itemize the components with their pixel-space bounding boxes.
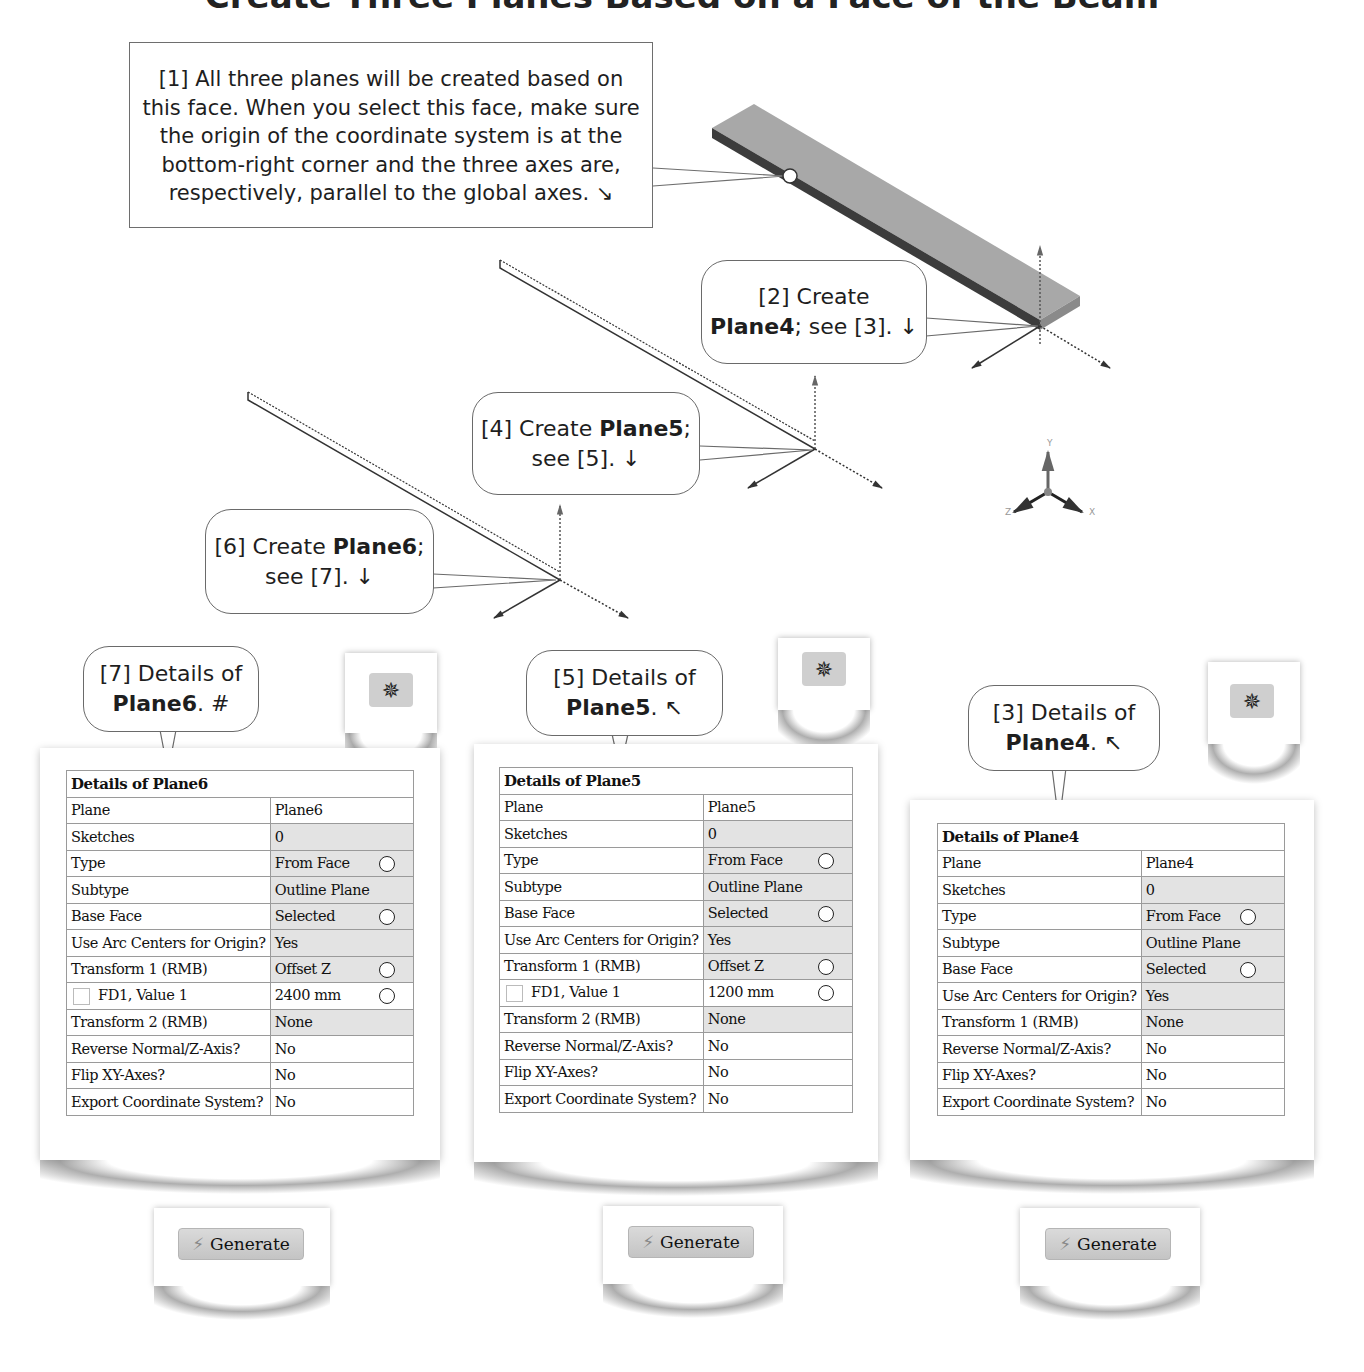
- table-row: Export Coordinate System?No: [67, 1089, 414, 1116]
- table-row: Sketches0: [938, 877, 1285, 904]
- callout-6: [6] Create Plane6; see [7]. ↓: [205, 509, 434, 614]
- radio-icon[interactable]: [379, 909, 395, 925]
- table-row: Export Coordinate System?No: [500, 1086, 853, 1113]
- table-row: FD1, Value 12400 mm: [67, 983, 414, 1010]
- table-row: PlanePlane5: [500, 794, 853, 821]
- table-row: Transform 1 (RMB)Offset Z: [500, 953, 853, 980]
- new-plane-icon: ✵: [1243, 689, 1261, 714]
- table-row: Flip XY-Axes?No: [938, 1062, 1285, 1089]
- generate-toolbar-crop: ⚡ Generate: [154, 1208, 330, 1286]
- details-of-plane6: Details of Plane6 PlanePlane6 Sketches0 …: [66, 770, 414, 1116]
- new-plane-icon: ✵: [382, 678, 400, 703]
- table-row: TypeFrom Face: [500, 847, 853, 874]
- table-row: Sketches0: [67, 824, 414, 851]
- callout-5: [5] Details of Plane5. ↖: [526, 650, 723, 736]
- lightning-bolt-icon: ⚡: [1059, 1234, 1071, 1254]
- radio-icon[interactable]: [379, 856, 395, 872]
- radio-icon[interactable]: [818, 853, 834, 869]
- svg-text:X: X: [1089, 507, 1095, 517]
- note-line: [1] All three planes will be created bas…: [140, 65, 642, 94]
- curl-shadow: [603, 1284, 783, 1318]
- page-title: Create Three Planes Based on a Face of t…: [0, 0, 1364, 8]
- parameter-checkbox[interactable]: [73, 988, 90, 1005]
- table-row: Base FaceSelected: [67, 903, 414, 930]
- table-row: SubtypeOutline Plane: [500, 874, 853, 901]
- note-1: [1] All three planes will be created bas…: [129, 42, 653, 228]
- new-plane-button[interactable]: ✵: [1230, 684, 1274, 718]
- new-plane-icon: ✵: [815, 657, 833, 682]
- table-row: Reverse Normal/Z-Axis?No: [500, 1033, 853, 1060]
- table-row: Transform 1 (RMB)Offset Z: [67, 956, 414, 983]
- table-row: PlanePlane6: [67, 797, 414, 824]
- table-row: Transform 2 (RMB)None: [500, 1006, 853, 1033]
- table-row: Use Arc Centers for Origin?Yes: [500, 927, 853, 954]
- generate-toolbar-crop: ⚡ Generate: [1020, 1208, 1200, 1286]
- table-row: TypeFrom Face: [938, 903, 1285, 930]
- generate-toolbar-crop: ⚡ Generate: [603, 1206, 783, 1284]
- table-row: Use Arc Centers for Origin?Yes: [67, 930, 414, 957]
- table-row: Reverse Normal/Z-Axis?No: [67, 1036, 414, 1063]
- table-row: Reverse Normal/Z-Axis?No: [938, 1036, 1285, 1063]
- curl-shadow: [1020, 1286, 1200, 1320]
- table-row: TypeFrom Face: [67, 850, 414, 877]
- new-plane-toolbar-crop: ✵: [345, 653, 437, 733]
- details-header: Details of Plane6: [67, 771, 414, 798]
- generate-button[interactable]: ⚡ Generate: [1045, 1228, 1171, 1260]
- radio-icon[interactable]: [1240, 909, 1256, 925]
- note-line: respectively, parallel to the global axe…: [140, 179, 642, 208]
- note-line: bottom-right corner and the three axes a…: [140, 151, 642, 180]
- details-of-plane4: Details of Plane4 PlanePlane4 Sketches0 …: [937, 823, 1285, 1116]
- callout-7: [7] Details of Plane6. #: [83, 646, 259, 732]
- svg-text:Y: Y: [1046, 438, 1053, 448]
- callout-6-bold: Plane6: [333, 534, 417, 559]
- svg-text:Z: Z: [1005, 507, 1011, 517]
- table-row: Flip XY-Axes?No: [500, 1059, 853, 1086]
- lightning-bolt-icon: ⚡: [642, 1232, 654, 1252]
- curl-shadow: [474, 1162, 878, 1196]
- fd1-value-input[interactable]: 1200 mm: [708, 984, 774, 1000]
- note-line: the origin of the coordinate system is a…: [140, 122, 642, 151]
- callout-2-bold: Plane4: [710, 314, 794, 339]
- radio-icon[interactable]: [818, 959, 834, 975]
- radio-icon[interactable]: [818, 985, 834, 1001]
- radio-icon[interactable]: [818, 906, 834, 922]
- table-row: Base FaceSelected: [500, 900, 853, 927]
- table-row: FD1, Value 11200 mm: [500, 980, 853, 1007]
- global-triad: Y Z X: [1005, 438, 1095, 517]
- details-header: Details of Plane4: [938, 824, 1285, 851]
- new-plane-button[interactable]: ✵: [369, 673, 413, 707]
- table-row: PlanePlane4: [938, 850, 1285, 877]
- parameter-checkbox[interactable]: [506, 985, 523, 1002]
- table-row: SubtypeOutline Plane: [67, 877, 414, 904]
- curl-shadow: [154, 1286, 330, 1320]
- note-line: this face. When you select this face, ma…: [140, 94, 642, 123]
- curl-shadow: [910, 1160, 1314, 1194]
- callout-4-bold: Plane5: [599, 416, 683, 441]
- table-row: Export Coordinate System?No: [938, 1089, 1285, 1116]
- table-row: Flip XY-Axes?No: [67, 1062, 414, 1089]
- radio-icon[interactable]: [1240, 962, 1256, 978]
- fd1-value-input[interactable]: 2400 mm: [275, 987, 341, 1003]
- plane4-axes: [972, 246, 1110, 368]
- generate-button[interactable]: ⚡ Generate: [178, 1228, 304, 1260]
- new-plane-toolbar-crop: ✵: [778, 638, 870, 710]
- table-row: Base FaceSelected: [938, 956, 1285, 983]
- curl-shadow: [40, 1160, 440, 1194]
- new-plane-toolbar-crop: ✵: [1208, 662, 1300, 744]
- lightning-bolt-icon: ⚡: [192, 1234, 204, 1254]
- note1-pointer: [653, 168, 797, 186]
- details-header: Details of Plane5: [500, 768, 853, 795]
- table-row: Sketches0: [500, 821, 853, 848]
- details-of-plane5: Details of Plane5 PlanePlane5 Sketches0 …: [499, 767, 853, 1113]
- table-row: SubtypeOutline Plane: [938, 930, 1285, 957]
- radio-icon[interactable]: [379, 988, 395, 1004]
- callout-3: [3] Details of Plane4. ↖: [968, 685, 1160, 771]
- callout-2: [2] Create Plane4; see [3]. ↓: [701, 260, 927, 364]
- new-plane-button[interactable]: ✵: [802, 652, 846, 686]
- table-row: Use Arc Centers for Origin?Yes: [938, 983, 1285, 1010]
- radio-icon[interactable]: [379, 962, 395, 978]
- curl-shadow: [1208, 744, 1300, 784]
- table-row: Transform 2 (RMB)None: [67, 1009, 414, 1036]
- callout-4: [4] Create Plane5; see [5]. ↓: [472, 392, 700, 495]
- generate-button[interactable]: ⚡ Generate: [628, 1226, 754, 1258]
